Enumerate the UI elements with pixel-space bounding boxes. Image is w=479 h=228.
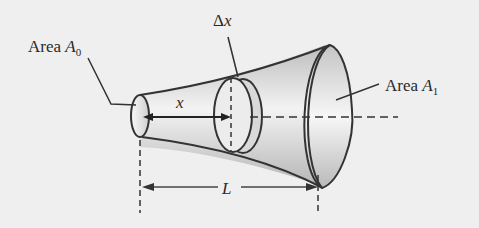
label-x: x [175,93,184,112]
label-area-a1: Area A1 [385,76,438,97]
label-area-a0: Area A0 [28,37,82,58]
leader-area-a0 [88,58,136,105]
label-L: L [221,179,231,198]
label-delta-x: Δx [213,11,232,30]
l-arrow-left-head [142,183,154,191]
slice-disc-front [214,78,252,152]
leader-delta-x [228,37,238,77]
horn-diagram: Area A0 Δx Area A1 x L [0,0,479,228]
